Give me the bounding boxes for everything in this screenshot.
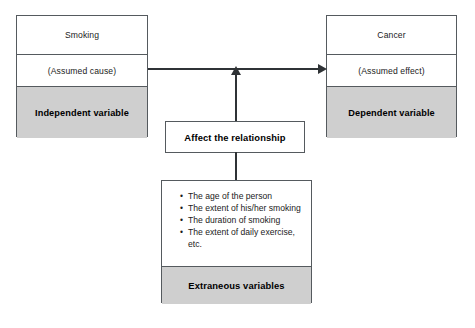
dependent-variable-role-note: (Assumed effect) bbox=[327, 54, 456, 86]
list-item: The extent of daily exercise, etc. bbox=[188, 227, 305, 250]
independent-variable-box: Smoking (Assumed cause) Independent vari… bbox=[16, 15, 148, 137]
dependent-variable-box: Cancer (Assumed effect) Dependent variab… bbox=[326, 15, 457, 137]
dependent-variable-type-label: Dependent variable bbox=[327, 86, 456, 138]
list-item: The age of the person bbox=[188, 191, 305, 203]
independent-variable-name: Smoking bbox=[17, 16, 147, 54]
moderator-to-relationship-arrowhead-icon bbox=[231, 66, 241, 75]
extraneous-variables-type-label: Extraneous variables bbox=[162, 266, 311, 304]
affect-relationship-label: Affect the relationship bbox=[184, 132, 285, 143]
dependent-variable-name: Cancer bbox=[327, 16, 456, 54]
list-item: The duration of smoking bbox=[188, 215, 305, 227]
cause-to-effect-arrowhead-icon bbox=[318, 64, 327, 74]
extraneous-to-moderator-connector-line bbox=[235, 152, 237, 181]
affect-relationship-box: Affect the relationship bbox=[165, 121, 305, 153]
list-item: The extent of his/her smoking bbox=[188, 203, 305, 215]
extraneous-variables-list: The age of the person The extent of his/… bbox=[176, 191, 305, 250]
extraneous-variables-list-section: The age of the person The extent of his/… bbox=[162, 181, 311, 266]
extraneous-variables-box: The age of the person The extent of his/… bbox=[161, 180, 312, 303]
independent-variable-type-label: Independent variable bbox=[17, 86, 147, 138]
moderator-to-relationship-arrow-line bbox=[235, 69, 237, 121]
independent-variable-role-note: (Assumed cause) bbox=[17, 54, 147, 86]
variables-relationship-diagram: Smoking (Assumed cause) Independent vari… bbox=[0, 0, 475, 328]
